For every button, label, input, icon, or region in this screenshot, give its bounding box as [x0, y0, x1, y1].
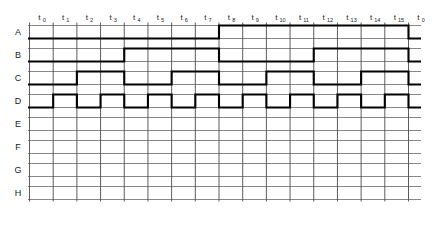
time-tick-base: t: [109, 13, 112, 22]
timing-diagram: t0t1t2t3t4t5t6t7t8t9t10t11t12t13t14t15t0…: [0, 0, 435, 226]
time-tick-subscript: 3: [114, 17, 117, 23]
signal-label-e: E: [15, 119, 21, 129]
time-tick-base: t: [346, 13, 349, 22]
time-tick-base: t: [204, 13, 207, 22]
signal-label-a: A: [15, 27, 21, 37]
time-tick-label: t13: [346, 13, 356, 23]
time-tick-label: t4: [133, 13, 140, 23]
signal-row-labels: ABCDEFGH: [14, 27, 21, 198]
time-tick-subscript: 4: [137, 17, 140, 23]
time-tick-label: t11: [299, 13, 309, 23]
time-tick-subscript: 8: [232, 17, 235, 23]
time-tick-base: t: [252, 13, 255, 22]
signal-waveforms: [28, 26, 421, 108]
time-tick-subscript: 9: [256, 17, 259, 23]
time-tick-base: t: [370, 13, 373, 22]
time-tick-subscript: 13: [351, 17, 357, 23]
time-tick-label: t8: [228, 13, 235, 23]
time-tick-subscript: 1: [66, 17, 69, 23]
time-tick-subscript: 5: [161, 17, 164, 23]
signal-label-d: D: [15, 96, 22, 106]
time-tick-subscript: 0: [422, 17, 425, 23]
time-tick-label: t1: [62, 13, 69, 23]
time-tick-subscript: 0: [43, 17, 46, 23]
time-tick-label: t7: [204, 13, 211, 23]
time-tick-label: t14: [370, 13, 380, 23]
time-tick-base: t: [38, 13, 41, 22]
time-tick-base: t: [323, 13, 326, 22]
time-tick-label: t0: [417, 13, 424, 23]
time-tick-label: t3: [109, 13, 116, 23]
signal-label-f: F: [15, 142, 21, 152]
timing-diagram-canvas: t0t1t2t3t4t5t6t7t8t9t10t11t12t13t14t15t0…: [0, 0, 435, 226]
waveform-c: [28, 72, 421, 85]
time-tick-subscript: 14: [374, 17, 380, 23]
time-tick-base: t: [417, 13, 420, 22]
waveform-b: [28, 49, 421, 62]
time-tick-subscript: 12: [327, 17, 333, 23]
time-tick-subscript: 15: [398, 17, 404, 23]
signal-label-c: C: [15, 73, 22, 83]
time-tick-subscript: 7: [208, 17, 211, 23]
time-tick-base: t: [275, 13, 278, 22]
time-tick-subscript: 2: [90, 17, 93, 23]
time-tick-label: t9: [252, 13, 259, 23]
signal-label-g: G: [14, 165, 21, 175]
time-tick-label: t10: [275, 13, 285, 23]
time-tick-base: t: [299, 13, 302, 22]
signal-label-h: H: [15, 188, 22, 198]
grid-horizontal-lines: [28, 26, 421, 200]
time-tick-subscript: 11: [303, 17, 309, 23]
time-tick-subscript: 6: [185, 17, 188, 23]
time-tick-label: t2: [86, 13, 93, 23]
time-tick-base: t: [86, 13, 89, 22]
time-tick-label: t5: [157, 13, 164, 23]
signal-label-b: B: [15, 50, 21, 60]
time-tick-label: t6: [180, 13, 187, 23]
time-tick-label: t12: [323, 13, 333, 23]
time-tick-base: t: [157, 13, 160, 22]
time-tick-label: t0: [38, 13, 45, 23]
time-tick-subscript: 10: [280, 17, 286, 23]
time-tick-base: t: [62, 13, 65, 22]
waveform-d: [28, 95, 421, 108]
time-tick-base: t: [180, 13, 183, 22]
time-tick-base: t: [133, 13, 136, 22]
waveform-a: [28, 26, 421, 39]
time-tick-base: t: [394, 13, 397, 22]
time-tick-base: t: [228, 13, 231, 22]
time-axis-tick-labels: t0t1t2t3t4t5t6t7t8t9t10t11t12t13t14t15t0: [38, 13, 424, 23]
time-tick-label: t15: [394, 13, 404, 23]
